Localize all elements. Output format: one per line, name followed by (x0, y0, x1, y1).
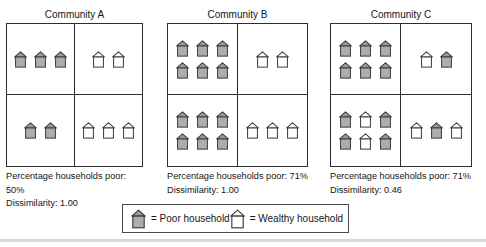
community-c-quadrant-bottom-right (401, 95, 471, 166)
wealthy-house-icon (359, 111, 372, 128)
wealthy-house-icon (82, 122, 95, 139)
poor-house-icon (359, 40, 372, 57)
house-row (14, 51, 67, 68)
poor-house-icon (176, 111, 189, 128)
wealthy-house-icon (92, 51, 105, 68)
poor-house-icon (24, 122, 37, 139)
community-b-panel: Community B Percentage households poor: … (167, 6, 308, 197)
wealthy-house-icon (359, 133, 372, 150)
wealthy-house-legend-icon (230, 209, 245, 229)
poor-house-icon (176, 40, 189, 57)
community-c-percent-poor: Percentage households poor: 71% (330, 170, 472, 184)
wealthy-house-icon (112, 51, 125, 68)
poor-house-icon (359, 62, 372, 79)
community-c-caption: Percentage households poor: 71% Dissimil… (330, 170, 472, 197)
poor-house-icon (379, 62, 392, 79)
community-a-grid (6, 23, 143, 167)
poor-house-icon (176, 133, 189, 150)
poor-house-icon (440, 51, 453, 68)
community-a-quadrant-bottom-right (75, 95, 143, 166)
wealthy-house-icon (420, 51, 433, 68)
house-row (131, 209, 146, 229)
poor-house-icon (339, 133, 352, 150)
house-row (176, 40, 229, 57)
poor-house-icon (34, 51, 47, 68)
poor-house-icon (131, 209, 146, 229)
house-row (339, 40, 392, 57)
poor-house-icon (216, 40, 229, 57)
poor-house-icon (176, 62, 189, 79)
poor-house-icon (379, 40, 392, 57)
community-c-quadrant-top-right (401, 24, 471, 95)
wealthy-house-icon (286, 122, 299, 139)
community-b-quadrant-bottom-right (238, 95, 308, 166)
poor-house-icon (196, 133, 209, 150)
house-row (410, 122, 463, 139)
house-row (176, 133, 229, 150)
community-b-quadrant-bottom-left (168, 95, 238, 166)
house-row (82, 122, 135, 139)
house-row (420, 51, 453, 68)
poor-house-icon (379, 111, 392, 128)
wealthy-house-icon (450, 122, 463, 139)
community-b-quadrant-top-right (238, 24, 308, 95)
house-row (339, 133, 392, 150)
community-a-percent-poor: Percentage households poor: 50% (6, 170, 143, 197)
community-b-percent-poor: Percentage households poor: 71% (167, 170, 308, 184)
poor-house-icon (339, 111, 352, 128)
house-row (230, 209, 245, 229)
community-c-grid (330, 23, 472, 167)
poor-house-icon (430, 122, 443, 139)
wealthy-house-icon (276, 51, 289, 68)
poor-house-icon (196, 111, 209, 128)
poor-house-icon (196, 40, 209, 57)
wealthy-house-icon (256, 51, 269, 68)
wealthy-house-icon (410, 122, 423, 139)
poor-house-icon (14, 51, 27, 68)
poor-house-legend-icon (131, 209, 146, 229)
poor-house-icon (196, 62, 209, 79)
community-a-quadrant-bottom-left (7, 95, 75, 166)
legend-item-wealthy: = Wealthy household (230, 209, 344, 229)
house-row (246, 122, 299, 139)
wealthy-house-icon (246, 122, 259, 139)
community-b-title: Community B (167, 6, 308, 23)
community-a-title: Community A (6, 6, 143, 23)
legend-wealthy-label: = Wealthy household (250, 213, 344, 224)
community-c-title: Community C (330, 6, 472, 23)
community-c-quadrant-bottom-left (331, 95, 401, 166)
community-c-panel: Community C Percentage households poor: … (330, 6, 472, 197)
poor-house-icon (216, 133, 229, 150)
poor-house-icon (216, 111, 229, 128)
house-row (339, 62, 392, 79)
poor-house-icon (216, 62, 229, 79)
poor-house-icon (339, 62, 352, 79)
poor-house-icon (54, 51, 67, 68)
poor-house-icon (44, 122, 57, 139)
segregation-figure: Community A Percentage households poor: … (0, 0, 486, 247)
community-b-caption: Percentage households poor: 71% Dissimil… (167, 170, 308, 197)
legend-box: = Poor household = Wealthy household (122, 204, 349, 233)
wealthy-house-icon (122, 122, 135, 139)
community-c-dissimilarity: Dissimilarity: 0.46 (330, 184, 472, 198)
poor-house-icon (379, 133, 392, 150)
wealthy-house-icon (266, 122, 279, 139)
page-edge-band (0, 239, 486, 242)
community-b-quadrant-top-left (168, 24, 238, 95)
house-row (92, 51, 125, 68)
wealthy-house-icon (230, 209, 245, 229)
community-b-grid (167, 23, 308, 167)
poor-house-icon (339, 40, 352, 57)
wealthy-house-icon (102, 122, 115, 139)
community-b-dissimilarity: Dissimilarity: 1.00 (167, 184, 308, 198)
house-row (256, 51, 289, 68)
house-row (339, 111, 392, 128)
house-row (24, 122, 57, 139)
community-a-panel: Community A Percentage households poor: … (6, 6, 143, 211)
legend-poor-label: = Poor household (151, 213, 230, 224)
house-row (176, 62, 229, 79)
community-c-quadrant-top-left (331, 24, 401, 95)
legend-item-poor: = Poor household (131, 209, 230, 229)
house-row (176, 111, 229, 128)
community-a-quadrant-top-left (7, 24, 75, 95)
